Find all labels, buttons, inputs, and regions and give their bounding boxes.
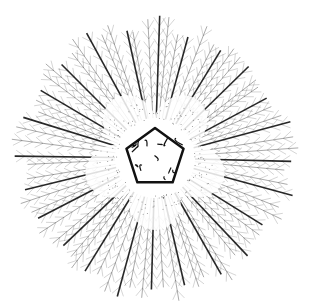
organism-illustration	[0, 0, 310, 308]
